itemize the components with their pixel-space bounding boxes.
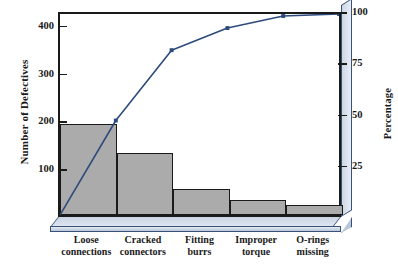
y-tick-mark-left-0: [58, 169, 67, 171]
y-tick-mark-right-1: [338, 115, 347, 117]
line-marker-1: [170, 48, 174, 52]
y-tick-mark-left-1: [58, 121, 67, 123]
y-axis-ticks-left: 100200300400: [20, 0, 54, 271]
line-marker-3: [281, 14, 285, 18]
line-marker-2: [225, 26, 229, 30]
y-tick-label-left-3: 400: [20, 21, 54, 32]
y-tick-label-left-0: 100: [20, 164, 54, 175]
line-marker-4: [337, 14, 339, 16]
y-tick-mark-left-2: [58, 74, 67, 76]
y-axis-ticks-right: 255075100: [352, 0, 386, 271]
y-tick-mark-left-3: [58, 26, 67, 28]
cumulative-line-series: [60, 14, 339, 215]
y-tick-label-right-0: 25: [352, 161, 386, 172]
x-axis-category-labels: LooseconnectionsCrackedconnectorsFitting…: [58, 234, 341, 271]
pareto-chart: Number of Defectives Percentage 10020030…: [0, 0, 398, 271]
cumulative-line: [60, 14, 339, 215]
x-category-label-line: O-rings: [278, 234, 347, 246]
plot-base-front: [50, 226, 341, 232]
plot-area: [58, 12, 341, 217]
y-tick-label-left-2: 300: [20, 69, 54, 80]
x-category-label-line: missing: [278, 246, 347, 258]
y-tick-mark-right-0: [338, 166, 347, 168]
y-tick-label-right-3: 100: [352, 7, 386, 18]
plot-right-wall: [341, 0, 352, 217]
y-tick-mark-right-3: [338, 12, 347, 14]
y-tick-label-left-1: 200: [20, 116, 54, 127]
y-tick-label-right-1: 50: [352, 110, 386, 121]
plot-base-corner: [341, 217, 352, 233]
line-marker-0: [114, 119, 118, 123]
x-category-label-4: O-ringsmissing: [278, 234, 347, 258]
y-tick-label-right-2: 75: [352, 58, 386, 69]
y-tick-mark-right-2: [338, 63, 347, 65]
